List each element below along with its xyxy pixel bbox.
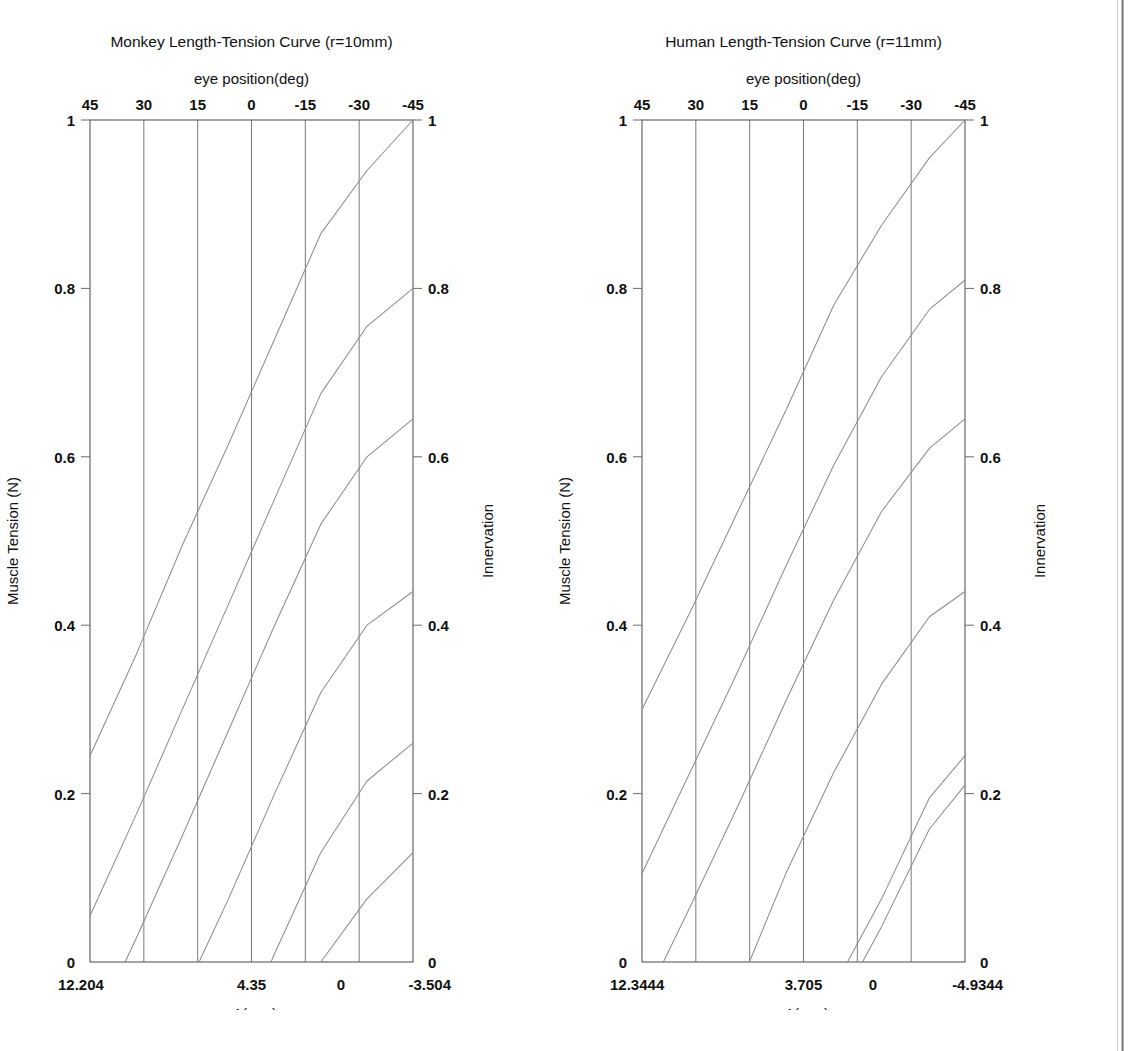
length-tension-curve: [125, 419, 413, 962]
right-tick-label: 0.8: [428, 280, 449, 297]
top-tick-label: -30: [900, 96, 922, 113]
panel-human: Human Length-Tension Curve (r=11mm)eye p…: [552, 0, 1112, 1010]
left-axis-label: Muscle Tension (N): [556, 477, 573, 605]
bottom-tick-label: 0: [869, 976, 877, 993]
panel-title: Human Length-Tension Curve (r=11mm): [665, 33, 942, 50]
bottom-tick-label: 4.35: [237, 976, 266, 993]
bottom-tick-label: -3.504: [408, 976, 451, 993]
human-plot-svg: Human Length-Tension Curve (r=11mm)eye p…: [552, 0, 1112, 1010]
left-axis-label: Muscle Tension (N): [4, 477, 21, 605]
top-tick-label: 45: [634, 96, 651, 113]
monkey-plot-svg: Monkey Length-Tension Curve (r=10mm)eye …: [0, 0, 560, 1010]
left-tick-label: 0.6: [54, 449, 75, 466]
top-axis-label: eye position(deg): [746, 70, 861, 87]
left-tick-label: 0.8: [54, 280, 75, 297]
right-tick-label: 0.6: [428, 449, 449, 466]
right-tick-label: 0.2: [980, 786, 1001, 803]
panel-monkey: Monkey Length-Tension Curve (r=10mm)eye …: [0, 0, 560, 1010]
top-tick-label: -15: [846, 96, 868, 113]
top-tick-label: 30: [687, 96, 704, 113]
right-tick-label: 1: [980, 112, 988, 129]
left-tick-label: 0.2: [606, 786, 627, 803]
left-tick-label: 1: [619, 112, 627, 129]
length-tension-curve: [271, 743, 413, 962]
top-tick-label: 15: [741, 96, 758, 113]
right-tick-label: 0.6: [980, 449, 1001, 466]
bottom-tick-label: 12.204: [58, 976, 105, 993]
length-tension-curve: [663, 419, 965, 962]
bottom-axis-label: x1(mm): [778, 1005, 829, 1010]
left-tick-label: 0: [619, 954, 627, 971]
figure-root: Monkey Length-Tension Curve (r=10mm)eye …: [0, 0, 1144, 1051]
right-tick-label: 0.8: [980, 280, 1001, 297]
bottom-tick-label: -4.9344: [952, 976, 1004, 993]
length-tension-curve: [199, 592, 413, 962]
bottom-tick-label: 0: [337, 976, 345, 993]
length-tension-curve: [848, 756, 965, 962]
left-tick-label: 0.2: [54, 786, 75, 803]
top-tick-label: 0: [247, 96, 255, 113]
right-axis-label: Innervation: [1031, 504, 1048, 578]
page-scan-edge: [1121, 0, 1124, 1051]
left-tick-label: 0.4: [54, 617, 76, 634]
right-tick-label: 0: [428, 954, 436, 971]
top-tick-label: 15: [189, 96, 206, 113]
left-tick-label: 0.4: [606, 617, 628, 634]
top-tick-label: -15: [294, 96, 316, 113]
top-tick-label: -30: [348, 96, 370, 113]
right-axis-label: Innervation: [479, 504, 496, 578]
left-tick-label: 0: [67, 954, 75, 971]
bottom-axis-label: x1(mm): [226, 1005, 277, 1010]
top-tick-label: -45: [954, 96, 976, 113]
right-tick-label: 0.2: [428, 786, 449, 803]
left-tick-label: 1: [67, 112, 75, 129]
top-axis-label: eye position(deg): [194, 70, 309, 87]
length-tension-curve: [321, 853, 413, 962]
right-tick-label: 0.4: [428, 617, 450, 634]
top-tick-label: -45: [402, 96, 424, 113]
bottom-tick-label: 12.3444: [610, 976, 665, 993]
panel-title: Monkey Length-Tension Curve (r=10mm): [110, 33, 392, 50]
right-tick-label: 1: [428, 112, 436, 129]
top-tick-label: 30: [135, 96, 152, 113]
right-tick-label: 0: [980, 954, 988, 971]
left-tick-label: 0.8: [606, 280, 627, 297]
length-tension-curve: [862, 785, 965, 962]
bottom-tick-label: 3.705: [785, 976, 823, 993]
page-edge-inner-line: [1117, 0, 1118, 1051]
left-tick-label: 0.6: [606, 449, 627, 466]
right-tick-label: 0.4: [980, 617, 1002, 634]
top-tick-label: 45: [82, 96, 99, 113]
top-tick-label: 0: [799, 96, 807, 113]
